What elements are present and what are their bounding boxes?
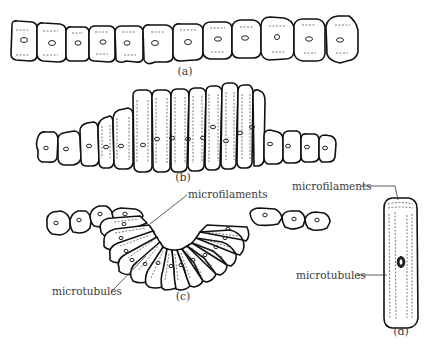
panel-a-cell-row — [11, 16, 358, 64]
panel-d-single-cell — [384, 198, 418, 328]
neural-tube-folding-diagram: (a) — [0, 0, 440, 349]
panel-d-microfilaments-label: microfilaments — [292, 180, 372, 192]
panel-b-cell-row — [37, 83, 337, 172]
panel-a-label: (a) — [177, 65, 192, 78]
panel-c-microtubules-label: microtubules — [52, 285, 122, 297]
panel-c-label: (c) — [176, 290, 191, 303]
panel-c-folding-sheet — [47, 206, 330, 290]
panel-c-microfilaments-label: microfilaments — [188, 188, 268, 200]
panel-d-label: (d) — [393, 325, 409, 338]
panel-b-label: (b) — [175, 171, 191, 184]
panel-d-microtubules-label: microtubules — [296, 269, 366, 281]
